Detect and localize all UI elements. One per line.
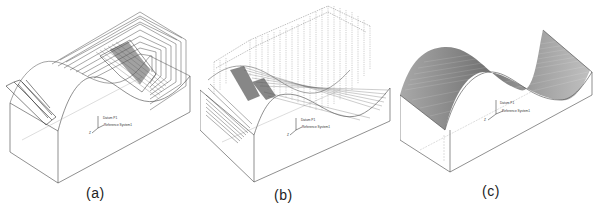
ref-label-b: Reference System1 [302, 125, 330, 129]
panel-a: Datum P1 Reference System1 Z (a) [0, 0, 200, 208]
toolpath-figure-a: Datum P1 Reference System1 Z [0, 0, 200, 208]
caption-b: (b) [274, 187, 293, 203]
axis-label-a: Z [89, 131, 91, 135]
caption-c: (c) [482, 183, 500, 199]
datum-label-c: Datum P1 [500, 101, 514, 105]
caption-a: (a) [86, 185, 105, 201]
toolpath-figure-b: Datum P1 Reference System1 Z [200, 0, 400, 208]
surface-figure-c: Datum P1 Reference System1 Z [400, 0, 597, 208]
axis-label-c: Z [484, 118, 486, 122]
panel-b: Datum P1 Reference System1 Z (b) [200, 0, 400, 208]
datum-label-a: Datum P1 [103, 116, 117, 120]
panel-c: Datum P1 Reference System1 Z (c) [400, 0, 597, 208]
ref-label-c: Reference System1 [502, 109, 530, 113]
axis-label-b: Z [287, 133, 289, 137]
datum-label-b: Datum P1 [301, 118, 315, 122]
ref-label-a: Reference System1 [104, 123, 132, 127]
